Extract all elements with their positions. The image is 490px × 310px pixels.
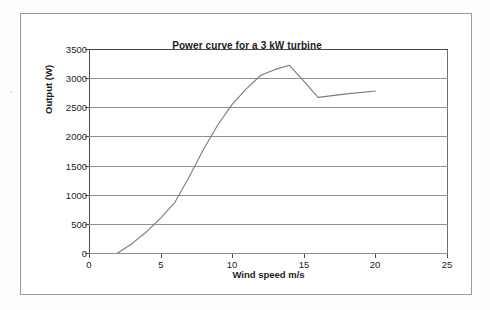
scan-artifact-mark: ´ bbox=[10, 92, 15, 99]
x-axis-label: Wind speed m/s bbox=[89, 269, 448, 280]
x-tick-mark bbox=[232, 254, 233, 258]
y-tick-label: 0 bbox=[33, 248, 87, 259]
x-tick-mark bbox=[447, 254, 448, 258]
data-series-line bbox=[89, 49, 448, 254]
x-tick-mark bbox=[304, 254, 305, 258]
y-tick-label: 3000 bbox=[33, 73, 87, 84]
x-tick-mark bbox=[375, 254, 376, 258]
plot-area: 0500100015002000250030003500 0510152025 bbox=[89, 49, 448, 254]
y-tick-label: 3500 bbox=[33, 44, 87, 55]
x-tick-mark bbox=[161, 254, 162, 258]
y-tick-label: 1000 bbox=[33, 190, 87, 201]
x-tick-mark bbox=[89, 254, 90, 258]
y-tick-label: 500 bbox=[33, 219, 87, 230]
screenshot-page: ´ Power curve for a 3 kW turbine Output … bbox=[0, 0, 490, 310]
chart-frame: Power curve for a 3 kW turbine Output (W… bbox=[20, 13, 472, 295]
y-tick-label: 2000 bbox=[33, 131, 87, 142]
y-tick-label: 1500 bbox=[33, 161, 87, 172]
y-tick-label: 2500 bbox=[33, 102, 87, 113]
